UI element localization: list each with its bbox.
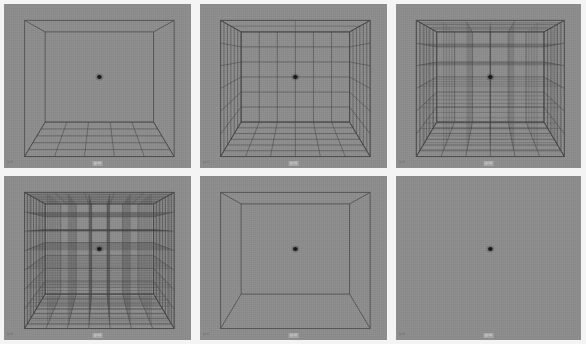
viewport-panel-4[interactable]: gridgrid bbox=[0, 172, 196, 344]
viewport-bottom-label: grid bbox=[483, 333, 494, 338]
viewport-bottom-label: grid bbox=[92, 333, 103, 338]
viewport-bottom-label: grid bbox=[92, 161, 103, 166]
viewport-canvas-6[interactable]: gridgrid bbox=[396, 176, 581, 340]
viewport-bottom-label: grid bbox=[288, 333, 299, 338]
viewport-panel-5[interactable]: gridgrid bbox=[196, 172, 392, 344]
viewport-corner-label: grid bbox=[203, 160, 209, 164]
viewport-canvas-1[interactable]: gridgrid bbox=[4, 4, 191, 168]
panel-grid: gridgridgridgridgridgridgridgridgridgrid… bbox=[0, 0, 586, 344]
viewport-panel-1[interactable]: gridgrid bbox=[0, 0, 196, 172]
viewport-corner-label: grid bbox=[399, 160, 405, 164]
viewport-panel-6[interactable]: gridgrid bbox=[392, 172, 586, 344]
viewport-panel-3[interactable]: gridgrid bbox=[392, 0, 586, 172]
viewport-canvas-4[interactable]: gridgrid bbox=[4, 176, 191, 340]
viewport-corner-label: grid bbox=[7, 160, 13, 164]
viewport-canvas-5[interactable]: gridgrid bbox=[200, 176, 387, 340]
viewport-bottom-label: grid bbox=[483, 161, 494, 166]
viewport-corner-label: grid bbox=[7, 332, 13, 336]
viewport-canvas-2[interactable]: gridgrid bbox=[200, 4, 387, 168]
viewport-canvas-3[interactable]: gridgrid bbox=[396, 4, 581, 168]
viewport-bottom-label: grid bbox=[288, 161, 299, 166]
viewport-corner-label: grid bbox=[399, 332, 405, 336]
viewport-panel-2[interactable]: gridgrid bbox=[196, 0, 392, 172]
viewport-corner-label: grid bbox=[203, 332, 209, 336]
